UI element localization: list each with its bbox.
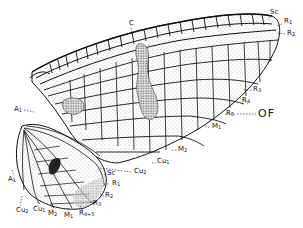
label-sub: 2 bbox=[143, 169, 146, 175]
label-hindwing-m1: M1 bbox=[64, 212, 73, 219]
label-forewing-r2: R2 bbox=[287, 30, 295, 37]
label-sub: 1 bbox=[13, 177, 16, 183]
label-forewing-r5: R5 bbox=[226, 110, 234, 117]
label-sub: 2 bbox=[25, 208, 28, 214]
label-sub: 1 bbox=[42, 207, 45, 213]
label-base: Cu bbox=[134, 167, 143, 175]
label-sub: 4 bbox=[247, 98, 250, 104]
label-of: OF bbox=[258, 108, 275, 119]
label-hindwing-r3: R3 bbox=[93, 200, 101, 207]
label-hindwing-r1: R1 bbox=[112, 180, 120, 187]
label-base: Cu bbox=[16, 206, 25, 214]
label-sub: 1 bbox=[70, 213, 73, 219]
label-forewing-m2: M2 bbox=[178, 146, 187, 153]
label-sub: 1 bbox=[218, 124, 221, 130]
label-hindwing-m2: M2 bbox=[48, 210, 57, 217]
label-hindwing-cu1: Cu1 bbox=[33, 206, 46, 213]
label-forewing-sc: Sc bbox=[270, 9, 278, 16]
label-sub: 5 bbox=[231, 111, 234, 117]
label-forewing-cu2: Cu2 bbox=[134, 168, 147, 175]
label-sub: 1 bbox=[117, 181, 120, 187]
label-sub: 3 bbox=[98, 201, 101, 207]
label-forewing-r4: R4 bbox=[242, 97, 250, 104]
label-sub: 1 bbox=[19, 107, 22, 113]
label-forewing-m1: M1 bbox=[212, 123, 221, 130]
label-sub: 4+5 bbox=[84, 211, 95, 217]
label-sub: 2 bbox=[54, 211, 57, 217]
label-forewing-cu1: Cu1 bbox=[157, 158, 170, 165]
label-base: Cu bbox=[33, 205, 42, 213]
label-hindwing-sc: Sc bbox=[107, 170, 115, 177]
label-forewing-r1: R1 bbox=[284, 18, 292, 25]
label-hindwing-r45: R4+5 bbox=[79, 210, 94, 217]
label-hindwing-a1: A1 bbox=[8, 176, 16, 183]
label-forewing-c: C bbox=[129, 20, 134, 27]
label-hindwing-r2: R2 bbox=[105, 192, 113, 199]
label-forewing-a1: A1 bbox=[14, 106, 22, 113]
label-sub: 2 bbox=[110, 193, 113, 199]
label-sub: 1 bbox=[166, 159, 169, 165]
label-forewing-r3: R3 bbox=[253, 86, 261, 93]
label-sub: 2 bbox=[184, 147, 187, 153]
label-hindwing-cu2: Cu2 bbox=[16, 207, 29, 214]
label-base: Cu bbox=[157, 157, 166, 165]
label-sub: 3 bbox=[258, 87, 261, 93]
label-sub: 1 bbox=[289, 19, 292, 25]
label-sub: 2 bbox=[292, 31, 295, 37]
